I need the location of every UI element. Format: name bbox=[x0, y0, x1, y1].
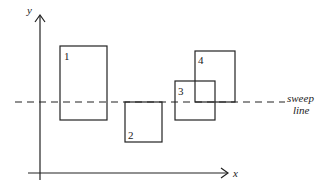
rectangle-1: 1 bbox=[60, 46, 107, 120]
sweep-line-label-1: sweep bbox=[287, 92, 314, 104]
rectangle-3-label: 3 bbox=[178, 85, 184, 97]
x-axis-label: x bbox=[232, 167, 238, 179]
y-axis: y bbox=[26, 4, 45, 180]
rectangle-2: 2 bbox=[125, 102, 162, 142]
sweep-line-label-2: line bbox=[293, 104, 310, 116]
x-axis: x bbox=[28, 167, 238, 179]
sweep-line-diagram: y x 1 2 3 4 sweep line bbox=[0, 0, 329, 193]
rectangle-4-label: 4 bbox=[198, 54, 204, 66]
y-axis-label: y bbox=[26, 4, 32, 16]
rectangle-2-label: 2 bbox=[128, 129, 134, 141]
rectangle-1-label: 1 bbox=[64, 50, 70, 62]
